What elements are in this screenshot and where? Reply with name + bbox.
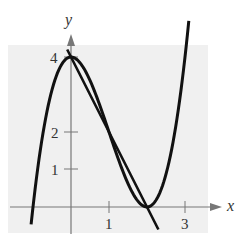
x-axis-arrow-icon [210, 203, 222, 211]
plot-background [8, 45, 208, 233]
x-tick-label-1: 1 [105, 216, 113, 232]
y-axis-label: y [63, 11, 73, 29]
chart: x y 1 3 1 2 4 [0, 0, 240, 245]
y-tick-label-1: 1 [51, 162, 59, 178]
y-axis-arrow-icon [67, 34, 75, 46]
x-axis-label: x [226, 197, 234, 214]
y-tick-label-2: 2 [51, 125, 59, 141]
x-tick-label-3: 3 [181, 216, 189, 232]
y-tick-label-4: 4 [50, 50, 58, 66]
